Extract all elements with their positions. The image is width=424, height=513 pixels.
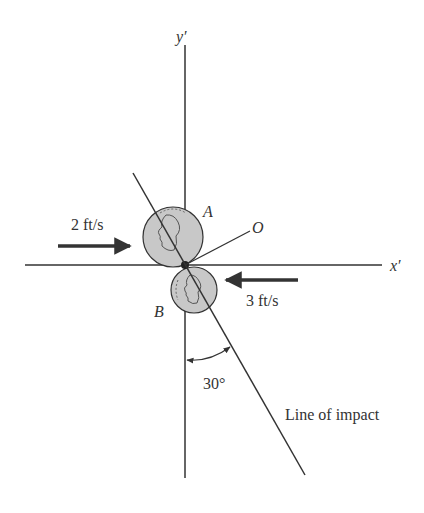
velocity-label-b: 3 ft/s bbox=[246, 292, 278, 309]
y-axis-label: y′ bbox=[174, 28, 187, 46]
coin-a bbox=[143, 207, 203, 267]
coin-b-label: B bbox=[154, 303, 164, 320]
line-of-impact-label: Line of impact bbox=[285, 406, 380, 424]
angle-arc bbox=[187, 347, 230, 360]
x-axis-label: x′ bbox=[389, 257, 401, 274]
coin-b bbox=[171, 267, 217, 313]
coin-a-label: A bbox=[202, 203, 213, 220]
velocity-label-a: 2 ft/s bbox=[71, 216, 103, 233]
line-of-impact bbox=[133, 173, 305, 475]
collision-diagram: y′ x′ A B O 2 ft/s 3 ft/s 30° Line of im… bbox=[0, 0, 424, 513]
origin-label: O bbox=[252, 219, 264, 236]
angle-label: 30° bbox=[203, 375, 225, 392]
